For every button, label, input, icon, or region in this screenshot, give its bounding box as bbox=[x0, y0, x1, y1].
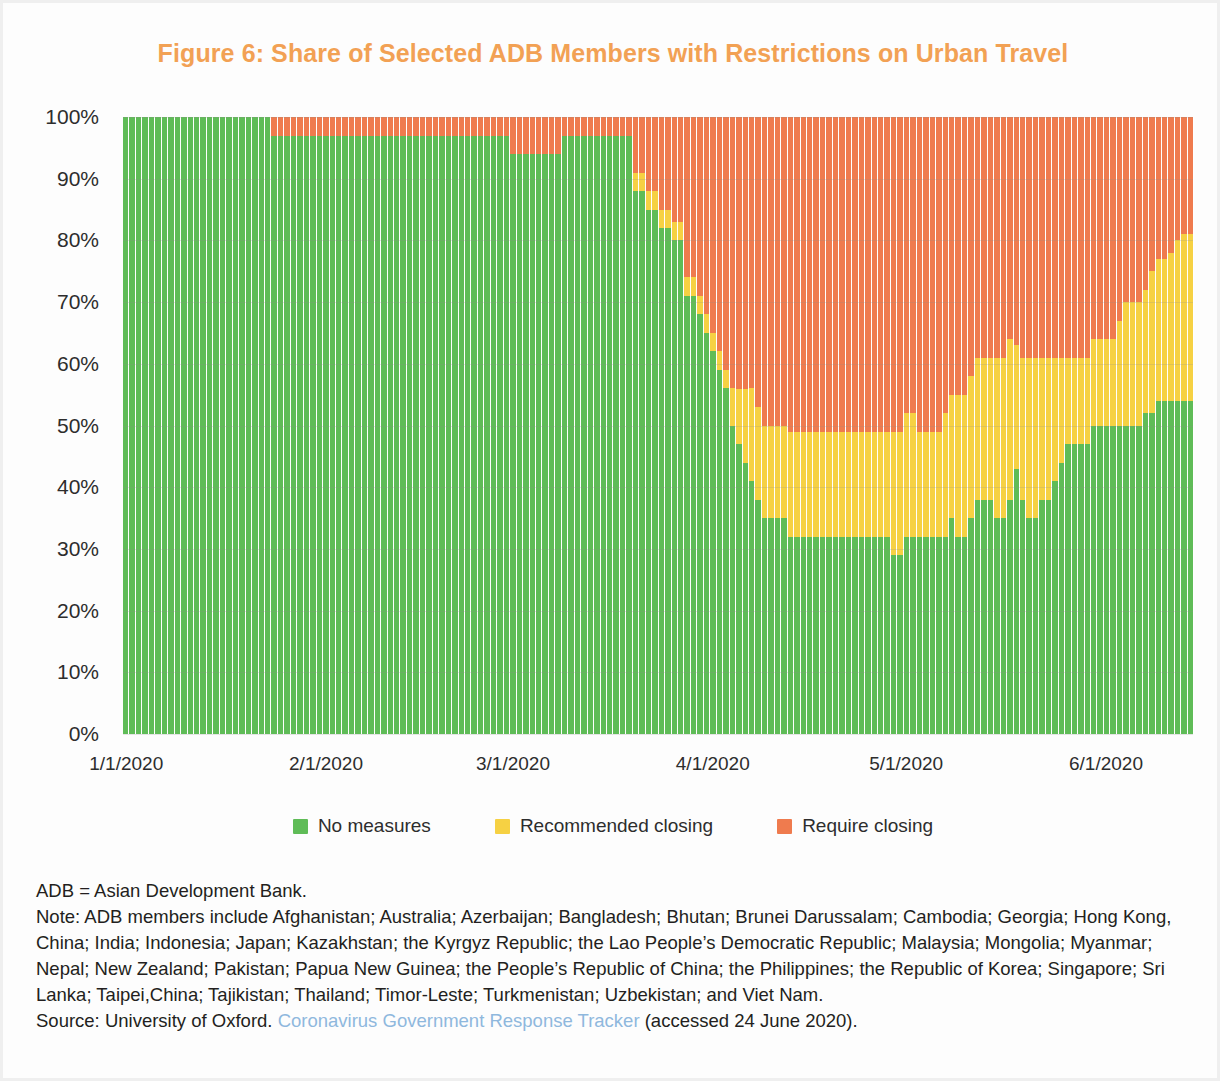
bar-segment bbox=[575, 136, 580, 734]
bar-segment bbox=[975, 117, 980, 358]
bar-segment bbox=[813, 537, 818, 734]
bar-segment bbox=[1039, 358, 1044, 500]
bar-segment bbox=[930, 432, 935, 537]
plot-area bbox=[123, 117, 1193, 734]
bar-segment bbox=[755, 500, 760, 734]
bar-segment bbox=[323, 117, 328, 136]
bar-segment bbox=[497, 136, 502, 734]
bar-segment bbox=[652, 210, 657, 734]
bar-segment bbox=[988, 117, 993, 358]
bar-segment bbox=[743, 389, 748, 463]
bar-segment bbox=[678, 240, 683, 734]
bar-segment bbox=[1059, 117, 1064, 358]
bar-segment bbox=[943, 537, 948, 734]
bar-segment bbox=[801, 117, 806, 432]
bar-segment bbox=[813, 117, 818, 432]
bar-segment bbox=[588, 136, 593, 734]
bar-segment bbox=[265, 117, 270, 734]
bar-segment bbox=[1007, 500, 1012, 734]
bar-segment bbox=[1097, 426, 1102, 735]
bar-segment bbox=[1039, 117, 1044, 358]
bar-segment bbox=[923, 537, 928, 734]
stacked-bar-series bbox=[123, 117, 1193, 734]
bar-segment bbox=[865, 537, 870, 734]
bar-segment bbox=[981, 117, 986, 358]
bar-segment bbox=[639, 173, 644, 192]
bar-segment bbox=[1130, 302, 1135, 425]
bar-segment bbox=[1026, 518, 1031, 734]
bar-segment bbox=[865, 117, 870, 432]
bar-segment bbox=[646, 210, 651, 734]
bar-segment bbox=[1020, 117, 1025, 358]
bar-segment bbox=[1181, 117, 1186, 234]
bar-segment bbox=[1168, 401, 1173, 734]
bar-segment bbox=[697, 117, 702, 296]
bar-segment bbox=[504, 136, 509, 734]
bar-segment bbox=[1014, 469, 1019, 734]
bar-segment bbox=[846, 117, 851, 432]
bar-segment bbox=[1181, 234, 1186, 401]
bar-segment bbox=[446, 136, 451, 734]
bar-segment bbox=[284, 117, 289, 136]
bar-segment bbox=[594, 136, 599, 734]
legend-label: Recommended closing bbox=[520, 815, 713, 837]
bar-segment bbox=[788, 432, 793, 537]
x-axis-tick-label: 3/1/2020 bbox=[476, 753, 550, 775]
bar-segment bbox=[1046, 500, 1051, 734]
bar-segment bbox=[936, 537, 941, 734]
bar-segment bbox=[794, 432, 799, 537]
bar-segment bbox=[601, 136, 606, 734]
source-suffix: (accessed 24 June 2020). bbox=[640, 1010, 858, 1031]
x-axis: 1/1/20202/1/20203/1/20204/1/20205/1/2020… bbox=[123, 745, 1193, 785]
bar-segment bbox=[736, 117, 741, 388]
bar-segment bbox=[820, 537, 825, 734]
bar-segment bbox=[342, 117, 347, 136]
bar-segment bbox=[613, 117, 618, 136]
bar-segment bbox=[1085, 358, 1090, 444]
bar-segment bbox=[478, 136, 483, 734]
bar-segment bbox=[730, 388, 735, 425]
bar-segment bbox=[794, 117, 799, 432]
bar-segment bbox=[639, 191, 644, 734]
bar-segment bbox=[659, 117, 664, 210]
bar-segment bbox=[123, 117, 128, 734]
bar-segment bbox=[988, 358, 993, 500]
legend-item[interactable]: No measures bbox=[293, 815, 431, 837]
bar-segment bbox=[1110, 339, 1115, 425]
bar-segment bbox=[1033, 518, 1038, 734]
bar-segment bbox=[917, 432, 922, 537]
bar-segment bbox=[1085, 444, 1090, 734]
source-link[interactable]: Coronavirus Government Response Tracker bbox=[278, 1010, 640, 1031]
bar-segment bbox=[1188, 117, 1193, 234]
bar-segment bbox=[542, 117, 547, 154]
bar-segment bbox=[433, 117, 438, 136]
legend-item[interactable]: Require closing bbox=[777, 815, 933, 837]
bar-segment bbox=[355, 136, 360, 734]
bar-segment bbox=[878, 117, 883, 432]
source-prefix: Source: University of Oxford. bbox=[36, 1010, 278, 1031]
bar-segment bbox=[1026, 358, 1031, 518]
bar-segment bbox=[530, 154, 535, 734]
bar-segment bbox=[510, 154, 515, 734]
bar-segment bbox=[420, 117, 425, 136]
bar-segment bbox=[304, 136, 309, 734]
page-title: Figure 6: Share of Selected ADB Members … bbox=[3, 39, 1220, 68]
bar-segment bbox=[684, 296, 689, 734]
bar-segment bbox=[762, 518, 767, 734]
bar-segment bbox=[497, 117, 502, 136]
bar-segment bbox=[1078, 444, 1083, 734]
bar-segment bbox=[846, 432, 851, 537]
bar-segment bbox=[271, 136, 276, 734]
bar-segment bbox=[620, 136, 625, 734]
bar-segment bbox=[968, 518, 973, 734]
bar-segment bbox=[1052, 117, 1057, 358]
bar-segment bbox=[1007, 117, 1012, 339]
legend-item[interactable]: Recommended closing bbox=[495, 815, 713, 837]
bar-segment bbox=[994, 117, 999, 358]
bar-segment bbox=[949, 518, 954, 734]
bar-segment bbox=[710, 333, 715, 352]
bar-segment bbox=[1168, 253, 1173, 401]
bar-segment bbox=[362, 136, 367, 734]
bar-segment bbox=[781, 117, 786, 426]
bar-segment bbox=[949, 117, 954, 395]
